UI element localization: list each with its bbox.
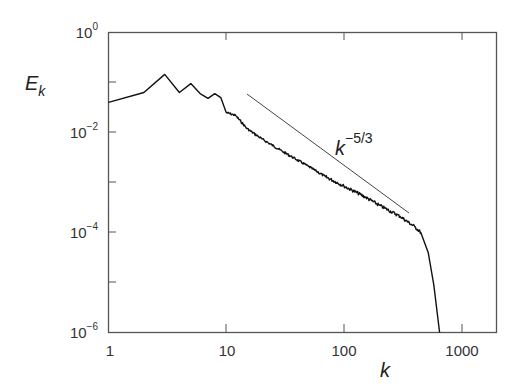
- slope-annotation: k−5/3: [335, 130, 373, 159]
- x-ticks: [226, 33, 462, 333]
- energy-spectrum-curve: [109, 74, 440, 332]
- x-axis-label: k: [380, 359, 391, 381]
- y-tick-label-1: 10−2: [70, 121, 99, 141]
- x-tick-label-1: 1: [106, 342, 114, 359]
- y-tick-label-0: 100: [76, 21, 99, 41]
- y-tick-labels: 100 10−2 10−4 10−6: [70, 21, 99, 341]
- y-tick-label-2: 10−4: [70, 221, 99, 241]
- reference-slope-line: [247, 94, 409, 213]
- y-axis-label: Ek: [25, 72, 46, 99]
- x-tick-label-10: 10: [219, 342, 236, 359]
- x-tick-label-100: 100: [331, 342, 356, 359]
- x-tick-labels: 1 10 100 1000: [106, 342, 479, 359]
- y-tick-label-3: 10−6: [70, 321, 99, 341]
- y-ticks: [109, 82, 117, 282]
- energy-spectrum-chart: 100 10−2 10−4 10−6 1 10 100 1000 k Ek k−…: [0, 0, 522, 386]
- x-tick-label-1000: 1000: [445, 342, 478, 359]
